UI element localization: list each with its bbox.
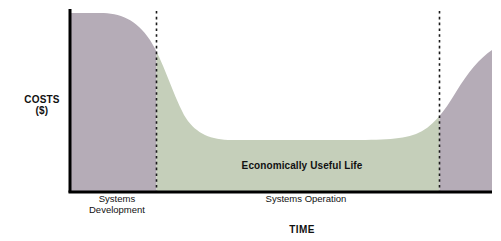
y-axis-label: COSTS ($): [14, 94, 70, 116]
x-axis-label: TIME: [262, 224, 342, 235]
y-axis-label-main: COSTS: [24, 94, 59, 105]
phase-label-systems-operation: Systems Operation: [226, 194, 386, 205]
y-axis-label-unit: ($): [14, 105, 70, 116]
region-systems-development-fill: [0, 0, 501, 241]
cost-curve-area-fills: [0, 0, 501, 241]
economically-useful-life-annotation: Economically Useful Life: [222, 160, 382, 171]
chart-plot-area: [0, 0, 501, 241]
system-cost-lifecycle-chart: COSTS ($) Economically Useful Life Syste…: [0, 0, 501, 241]
phase-label-systems-development: Systems Development: [79, 194, 155, 215]
